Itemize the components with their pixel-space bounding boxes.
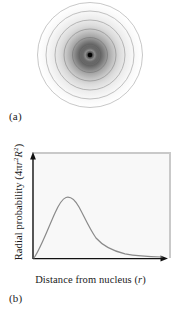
panel-a-caption: (a) (9, 110, 22, 123)
y-axis-label: Radial probability (4πr2R2) (11, 143, 27, 261)
x-axis-label: Distance from nucleus (r) (0, 273, 181, 286)
panel-a-orbital-diagram: (a) (0, 0, 181, 132)
plot-area (29, 151, 171, 264)
y-axis-symbol-R: R (13, 151, 24, 158)
electron-probability-cloud (36, 1, 144, 109)
orbital-cloud-svg (36, 1, 144, 109)
plot-svg (29, 151, 171, 264)
y-axis-symbol-r: r (13, 161, 24, 165)
panel-b-caption: (b) (9, 292, 22, 305)
nucleus-dot (88, 53, 93, 58)
panel-b-radial-probability-plot: Radial probability (4πr2R2) Distance fro… (0, 132, 181, 315)
x-axis-symbol-r: r (138, 274, 142, 285)
radial-probability-figure: (a) Radial probability (4πr2R2) Distance… (0, 0, 181, 315)
